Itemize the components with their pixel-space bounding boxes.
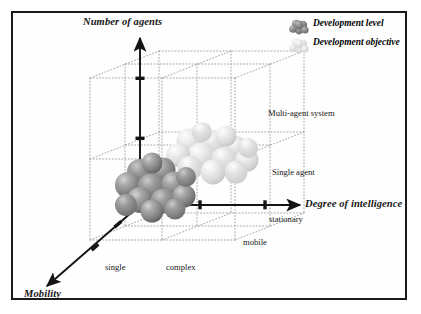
figure-container: Number of agents Degree of intelligence … [0,0,421,314]
tick-single [198,200,201,209]
tick-stationary [113,220,122,228]
cluster-icon-light [289,39,308,54]
tick-label-single-agent: Single agent [272,167,315,177]
axis-title-number-of-agents: Number of agents [83,16,162,27]
tick-complex [263,200,266,209]
axis-mobility [47,205,140,286]
cluster-icon-dark [289,20,308,35]
tick-label-single: single [105,262,126,272]
legend-label-development-level: Development level [313,18,384,28]
tick-single-agent [136,137,145,140]
tick-multi-agent-system [136,77,145,80]
tick-label-complex: complex [166,262,196,272]
legend-item-development-level: Development level [313,18,384,28]
legend-label-development-objective: Development objective [313,37,400,47]
tick-label-multi-agent-system: Multi-agent system [268,108,335,118]
diagram-canvas [0,0,421,314]
tick-label-stationary: stationary [269,214,303,224]
axis-title-mobility: Mobility [24,288,61,299]
axis-title-degree-of-intelligence: Degree of intelligence [305,198,402,209]
tick-label-mobile: mobile [243,237,267,247]
legend-item-development-objective: Development objective [313,37,400,47]
